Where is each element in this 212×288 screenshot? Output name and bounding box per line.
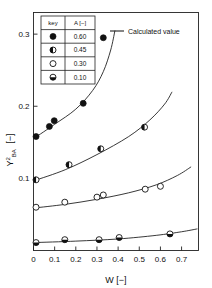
chart-figure: 00.10.20.30.40.50.60.7 0.10.20.3 W [−] Y… xyxy=(0,0,212,288)
legend-header-key: key xyxy=(48,20,57,26)
y-tick-label: 0.1 xyxy=(18,174,30,183)
y-tick-label: 0.2 xyxy=(18,102,30,111)
x-tick-label: 0.3 xyxy=(91,255,103,264)
legend-value: 0.10 xyxy=(74,74,87,81)
data-point-bottom-half-filled-circle xyxy=(50,74,56,80)
data-point-bottom-half-filled-circle xyxy=(116,235,122,241)
data-point-filled-circle xyxy=(51,118,57,124)
x-tick-label: 0.6 xyxy=(155,255,167,264)
data-point-half-filled-circle xyxy=(142,124,148,130)
data-point-open-circle xyxy=(62,199,68,205)
data-point-bottom-half-filled-circle xyxy=(96,237,102,243)
data-point-filled-circle xyxy=(80,100,86,106)
data-point-half-filled-circle xyxy=(66,162,72,168)
y-tick-label: 0.3 xyxy=(18,30,30,39)
data-point-half-filled-circle xyxy=(33,177,39,183)
legend-table: keyA [−]0.600.450.300.10 xyxy=(41,16,95,84)
data-point-bottom-half-filled-circle xyxy=(167,231,173,237)
data-point-open-circle xyxy=(50,61,56,67)
x-tick-label: 0.7 xyxy=(176,255,188,264)
data-point-open-circle xyxy=(157,183,163,189)
x-tick-label: 0.1 xyxy=(49,255,61,264)
data-point-filled-circle xyxy=(46,123,52,129)
data-point-filled-circle xyxy=(100,35,106,41)
x-tick-label: 0.5 xyxy=(134,255,146,264)
svg-text:W [−]: W [−] xyxy=(105,275,126,285)
data-point-bottom-half-filled-circle xyxy=(33,240,39,246)
data-point-open-circle xyxy=(142,186,148,192)
legend-value: 0.30 xyxy=(74,60,87,67)
x-tick-label: 0 xyxy=(31,255,36,264)
data-point-filled-circle xyxy=(50,33,56,39)
legend-header-a: A [−] xyxy=(74,20,87,26)
data-point-open-circle xyxy=(94,194,100,200)
chart-background xyxy=(0,0,212,288)
svg-text:Calculated value: Calculated value xyxy=(128,28,180,35)
x-axis-title: W [−] xyxy=(105,275,126,285)
data-point-half-filled-circle xyxy=(98,146,104,152)
data-point-open-circle xyxy=(100,192,106,198)
x-tick-label: 0.4 xyxy=(113,255,125,264)
data-point-open-circle xyxy=(33,204,39,210)
chart-canvas: 00.10.20.30.40.50.60.7 0.10.20.3 W [−] Y… xyxy=(0,0,212,288)
data-point-filled-circle xyxy=(33,134,39,140)
legend-value: 0.45 xyxy=(74,46,87,53)
x-tick-label: 0.2 xyxy=(70,255,82,264)
data-point-half-filled-circle xyxy=(50,47,56,53)
legend-value: 0.60 xyxy=(74,33,87,40)
data-point-bottom-half-filled-circle xyxy=(62,237,68,243)
